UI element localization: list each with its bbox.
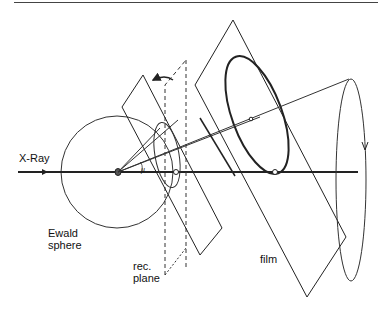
rec-plane-dashed — [165, 60, 186, 275]
ewald-label-line2: sphere — [48, 239, 98, 251]
cone-base-ellipse — [336, 79, 366, 281]
ewald-sphere-label: Ewald sphere — [48, 227, 98, 251]
film-label: film — [260, 253, 277, 265]
cone-mid-point — [249, 117, 253, 121]
xray-arrow-icon — [42, 169, 48, 175]
film-center-point — [273, 170, 278, 175]
rec-label-line1: rec. — [133, 260, 173, 272]
rec-plane-label: rec. plane — [133, 260, 173, 284]
rec-label-line2: plane — [133, 272, 173, 284]
ewald-label-line1: Ewald — [48, 227, 98, 239]
xray-label: X-Ray — [19, 152, 50, 164]
rec-origin-point — [174, 170, 179, 175]
diagram-canvas — [0, 0, 384, 320]
intersection-circle — [149, 120, 184, 189]
mu-angle-label: μ — [141, 164, 145, 176]
